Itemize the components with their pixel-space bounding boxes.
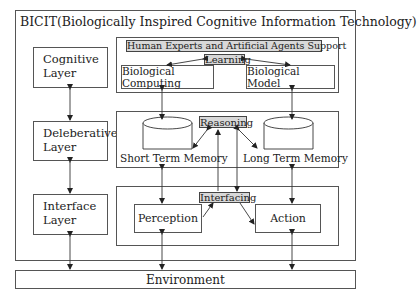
long-term-memory-cylinder-icon xyxy=(264,117,313,149)
short-term-memory-cylinder-icon xyxy=(143,117,192,149)
